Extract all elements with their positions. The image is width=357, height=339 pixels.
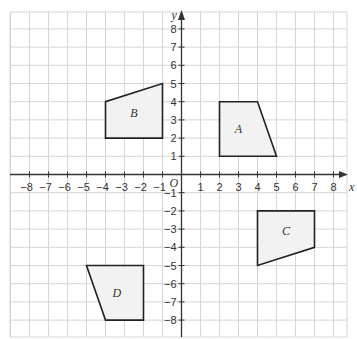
y-tick-label: −8 bbox=[164, 314, 177, 326]
y-axis-label: y bbox=[171, 8, 178, 22]
shape-outline bbox=[220, 102, 277, 157]
x-tick-label: 4 bbox=[254, 181, 260, 193]
x-tick-label: −4 bbox=[96, 181, 109, 193]
x-axis-label: x bbox=[348, 180, 355, 194]
coordinate-grid-diagram: ABCD x y O −8−7−6−5−4−3−2−11234567887654… bbox=[0, 0, 357, 339]
x-tick-label: −6 bbox=[58, 181, 71, 193]
x-tick-label: −3 bbox=[115, 181, 128, 193]
y-tick-label: −7 bbox=[164, 296, 177, 308]
shape-label: D bbox=[112, 286, 122, 300]
x-tick-label: 8 bbox=[330, 181, 336, 193]
x-tick-label: −8 bbox=[20, 181, 33, 193]
y-tick-label: −3 bbox=[164, 223, 177, 235]
x-tick-label: 2 bbox=[216, 181, 222, 193]
y-tick-label: 8 bbox=[170, 23, 176, 35]
y-tick-label: −1 bbox=[164, 187, 177, 199]
y-tick-label: −6 bbox=[164, 278, 177, 290]
x-tick-label: 1 bbox=[197, 181, 203, 193]
y-tick-label: 5 bbox=[170, 78, 176, 90]
y-tick-label: 3 bbox=[170, 114, 176, 126]
x-tick-label: 6 bbox=[292, 181, 298, 193]
x-tick-label: −7 bbox=[39, 181, 52, 193]
shape-c: C bbox=[258, 211, 315, 266]
y-tick-label: −5 bbox=[164, 260, 177, 272]
coordinate-plane: ABCD x y O −8−7−6−5−4−3−2−11234567887654… bbox=[0, 0, 357, 339]
x-tick-label: −5 bbox=[77, 181, 90, 193]
x-tick-label: 5 bbox=[273, 181, 279, 193]
shape-label: A bbox=[234, 122, 243, 136]
shape-b: B bbox=[106, 84, 163, 139]
shape-d: D bbox=[87, 266, 144, 321]
y-tick-label: −2 bbox=[164, 205, 177, 217]
x-tick-label: 3 bbox=[235, 181, 241, 193]
y-tick-label: −4 bbox=[164, 241, 177, 253]
axes: x y O bbox=[10, 8, 355, 337]
y-tick-label: 6 bbox=[170, 59, 176, 71]
shape-label: C bbox=[282, 224, 291, 238]
shape-outline bbox=[258, 211, 315, 266]
x-tick-label: 7 bbox=[311, 181, 317, 193]
x-tick-label: −2 bbox=[134, 181, 147, 193]
shape-a: A bbox=[220, 102, 277, 157]
y-tick-label: 2 bbox=[170, 132, 176, 144]
shape-label: B bbox=[130, 106, 138, 120]
y-tick-label: 4 bbox=[170, 96, 176, 108]
y-tick-label: 7 bbox=[170, 41, 176, 53]
y-tick-label: 1 bbox=[170, 150, 176, 162]
